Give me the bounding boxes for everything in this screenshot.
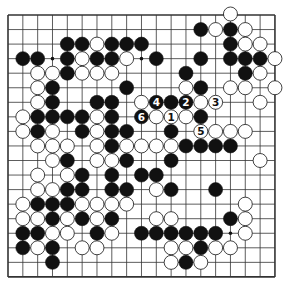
white-stone — [105, 154, 119, 168]
black-stone — [75, 37, 89, 51]
white-stone — [194, 255, 208, 269]
white-stone — [268, 81, 282, 95]
black-stone — [105, 110, 119, 124]
white-stone — [90, 139, 104, 153]
black-stone — [75, 183, 89, 197]
black-stone — [194, 139, 208, 153]
black-stone — [45, 241, 59, 255]
move-number-5: 5 — [197, 125, 204, 137]
black-stone — [16, 226, 30, 240]
white-stone — [164, 255, 178, 269]
white-stone — [134, 139, 148, 153]
white-stone — [105, 226, 119, 240]
white-stone — [45, 66, 59, 80]
black-stone — [60, 110, 74, 124]
white-stone — [209, 241, 223, 255]
black-stone — [134, 37, 148, 51]
black-stone — [75, 110, 89, 124]
black-stone — [45, 95, 59, 109]
black-stone — [105, 37, 119, 51]
white-stone — [31, 95, 45, 109]
white-stone — [238, 226, 252, 240]
white-stone — [164, 241, 178, 255]
white-stone — [164, 212, 178, 226]
white-stone — [60, 139, 74, 153]
white-stone — [179, 110, 193, 124]
white-stone — [253, 154, 267, 168]
white-stone — [238, 37, 252, 51]
black-stone — [90, 226, 104, 240]
white-stone — [105, 197, 119, 211]
black-stone — [179, 139, 193, 153]
black-stone — [209, 139, 223, 153]
go-board: 423615 — [0, 0, 289, 288]
black-stone — [105, 95, 119, 109]
black-stone — [179, 66, 193, 80]
black-stone — [238, 52, 252, 66]
black-stone — [16, 52, 30, 66]
white-stone — [16, 212, 30, 226]
black-stone — [16, 241, 30, 255]
black-stone — [120, 81, 134, 95]
black-stone — [45, 212, 59, 226]
white-stone — [60, 212, 74, 226]
black-stone — [45, 81, 59, 95]
white-stone — [223, 81, 237, 95]
black-stone — [120, 124, 134, 138]
white-stone — [75, 66, 89, 80]
white-stone — [90, 241, 104, 255]
white-stone — [223, 7, 237, 21]
white-stone — [223, 124, 237, 138]
black-stone — [164, 226, 178, 240]
white-stone — [45, 139, 59, 153]
white-stone — [253, 66, 267, 80]
black-stone — [223, 52, 237, 66]
white-stone — [179, 241, 193, 255]
black-stone — [31, 226, 45, 240]
white-stone — [90, 110, 104, 124]
black-stone — [238, 66, 252, 80]
black-stone — [75, 212, 89, 226]
star-point — [140, 57, 144, 61]
white-stone — [31, 66, 45, 80]
black-stone — [75, 124, 89, 138]
black-stone — [31, 124, 45, 138]
black-stone — [164, 183, 178, 197]
white-stone — [238, 197, 252, 211]
white-stone — [16, 124, 30, 138]
white-stone — [90, 197, 104, 211]
black-stone — [60, 52, 74, 66]
move-number-2: 2 — [182, 96, 189, 108]
black-stone — [105, 139, 119, 153]
white-stone — [31, 139, 45, 153]
black-stone — [90, 52, 104, 66]
black-stone — [194, 23, 208, 37]
white-stone — [149, 139, 163, 153]
black-stone — [31, 197, 45, 211]
black-stone — [149, 168, 163, 182]
white-stone — [31, 183, 45, 197]
black-stone — [120, 37, 134, 51]
black-stone — [134, 226, 148, 240]
star-point — [51, 57, 55, 61]
black-stone — [60, 37, 74, 51]
white-stone — [75, 52, 89, 66]
white-stone — [209, 23, 223, 37]
white-stone — [45, 124, 59, 138]
black-stone — [45, 255, 59, 269]
black-stone — [194, 110, 208, 124]
black-stone — [75, 168, 89, 182]
black-stone — [105, 52, 119, 66]
white-stone — [253, 37, 267, 51]
white-stone — [90, 124, 104, 138]
white-stone — [149, 110, 163, 124]
black-stone — [209, 226, 223, 240]
black-stone — [149, 52, 163, 66]
black-stone — [105, 124, 119, 138]
white-stone — [149, 183, 163, 197]
white-stone — [223, 241, 237, 255]
star-point — [229, 231, 233, 235]
white-stone — [31, 168, 45, 182]
white-stone — [90, 37, 104, 51]
white-stone — [105, 66, 119, 80]
